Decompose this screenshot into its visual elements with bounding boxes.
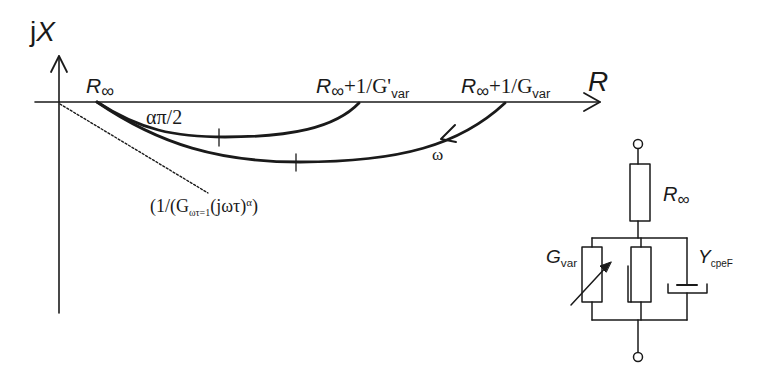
cpe-line-label: (1/(Gωτ=1(jωτ)α) [150,197,258,218]
circuit-g-var-label: Gvar [546,247,577,269]
cpe-mid: (jωτ) [210,196,246,216]
cpe-pre: (1/(G [150,196,189,216]
y-axis-label-var: X [36,16,55,47]
label-sub: cpeF [711,258,733,269]
label-sub: ∞ [476,81,489,101]
omega-label: ω [432,146,443,163]
small-arc [97,102,359,137]
label-sub: ∞ [677,190,689,209]
circuit-r-inf-label: R∞ [663,184,690,208]
label-base: R [663,183,677,205]
y-axis-label: jX [30,18,55,46]
label-rest-sub: var [532,86,550,101]
circuit-y-cpe-label: YcpeF [698,247,733,269]
x-axis-label: R [588,68,608,96]
label-rest: +1/G [489,74,532,98]
label-base: Y [698,246,711,267]
y-axis [51,56,67,313]
r-inf-resistor [630,164,650,221]
r-inf-label: R∞ [86,75,114,100]
cpe-sub: ωτ=1 [189,207,210,218]
r-inf-plus-g-label: R∞+1/Gvar [461,75,550,100]
r-inf-sub: ∞ [101,81,114,101]
impedance-diagram [0,0,760,379]
angle-label: απ/2 [146,107,182,127]
label-base: G [546,246,561,267]
bottom-terminal [634,353,643,362]
equivalent-circuit [571,140,707,362]
top-terminal [634,140,643,149]
label-sub: ∞ [331,81,344,101]
cpe-post: ) [252,196,258,216]
r-inf-base: R [86,74,101,97]
label-base: R [316,74,331,97]
label-rest: +1/G' [344,74,391,98]
label-base: R [461,74,476,97]
label-sub: var [561,256,577,269]
label-rest-sub: var [391,86,409,101]
middle-resistor [631,247,651,302]
cpe-asymptote-line [60,104,208,193]
r-inf-plus-gprime-label: R∞+1/G'var [316,75,409,100]
